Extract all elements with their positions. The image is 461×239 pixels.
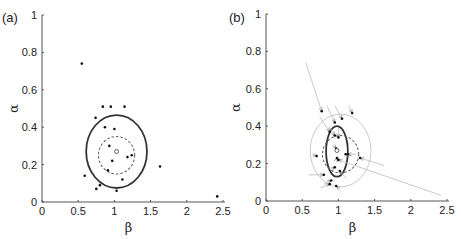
x-tick-label: 1.5 — [367, 204, 382, 216]
data-point — [126, 156, 129, 159]
data-point — [94, 117, 97, 120]
x-tick-label: 2 — [184, 205, 190, 217]
x-tick-label: 2 — [408, 204, 414, 216]
shrunk-point — [333, 166, 336, 169]
figure: 00.511.522.500.20.40.60.81βα(a) 00.511.5… — [0, 0, 461, 239]
shrunk-point — [337, 159, 340, 162]
shrunk-point — [341, 117, 344, 120]
data-point — [113, 128, 116, 131]
shrunk-point — [320, 110, 323, 113]
x-tick-label: 0 — [263, 204, 269, 216]
data-point — [108, 145, 111, 148]
mean-marker — [115, 150, 119, 154]
x-tick-label: 2.5 — [215, 205, 230, 217]
x-tick-label: 1.5 — [143, 205, 158, 217]
shrunk-point — [328, 183, 331, 186]
x-tick-label: 0 — [39, 205, 45, 217]
data-point — [107, 169, 110, 172]
shrunk-point — [339, 170, 342, 173]
data-point — [109, 105, 112, 108]
shrunk-point — [323, 174, 326, 177]
shrunk-point — [330, 179, 333, 182]
y-tick-label: 1 — [31, 9, 37, 21]
y-tick-label: 0.6 — [246, 83, 261, 95]
shrinkage-line — [338, 160, 441, 196]
shrinkage-line — [306, 63, 322, 112]
panel-label: (a) — [2, 10, 18, 25]
x-axis-label: β — [349, 220, 357, 235]
y-tick-label: 1 — [255, 8, 261, 20]
data-point — [111, 160, 114, 163]
data-point — [130, 154, 133, 157]
shrunk-point — [337, 136, 340, 139]
x-tick-label: 2.5 — [439, 204, 454, 216]
x-tick-label: 1 — [111, 205, 117, 217]
y-tick-label: 0.2 — [246, 158, 261, 170]
x-tick-label: 0.5 — [71, 205, 86, 217]
shrunk-point — [335, 185, 338, 188]
shrinkage-line — [360, 158, 384, 165]
shrinkage-line — [335, 106, 342, 119]
data-point — [99, 184, 102, 187]
x-axis-label: β — [125, 220, 133, 235]
data-point — [159, 165, 162, 168]
panel-b: 00.511.522.500.20.40.60.81βα(b) — [228, 8, 455, 235]
shrunk-point — [328, 131, 331, 134]
data-point — [83, 175, 86, 178]
x-tick-label: 0.5 — [295, 204, 310, 216]
y-tick-label: 0 — [255, 195, 261, 207]
y-axis-label: α — [228, 103, 243, 112]
data-point — [104, 126, 107, 129]
data-point — [121, 178, 124, 181]
y-tick-label: 0.2 — [22, 159, 37, 171]
data-point — [81, 62, 84, 65]
panel-a: 00.511.522.500.20.40.60.81βα(a) — [2, 9, 231, 235]
shrunk-point — [347, 153, 350, 156]
mean-marker — [335, 149, 339, 153]
data-point — [95, 188, 98, 191]
shrinkage-line — [327, 106, 335, 123]
y-tick-label: 0.4 — [22, 121, 37, 133]
dashed-ellipse — [98, 137, 134, 174]
y-tick-label: 0.8 — [246, 45, 261, 57]
shrunk-point — [315, 155, 318, 158]
y-axis-label: α — [6, 104, 21, 113]
shrunk-point — [333, 134, 336, 137]
y-tick-label: 0.8 — [22, 46, 37, 58]
x-tick-label: 1 — [335, 204, 341, 216]
data-point — [115, 189, 118, 192]
shrunk-point — [351, 112, 354, 115]
shrunk-point — [333, 121, 336, 124]
y-tick-label: 0 — [31, 196, 37, 208]
data-point — [102, 105, 105, 108]
panel-label: (b) — [229, 10, 245, 25]
data-point — [216, 195, 219, 198]
data-point — [123, 105, 126, 108]
y-tick-label: 0.6 — [22, 84, 37, 96]
shrunk-point — [359, 157, 362, 160]
y-tick-label: 0.4 — [246, 120, 261, 132]
